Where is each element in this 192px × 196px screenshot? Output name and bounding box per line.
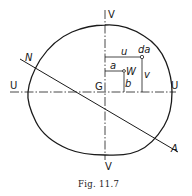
label-v: v <box>144 69 151 80</box>
label-u-right: U <box>171 80 178 91</box>
element-da-point <box>140 55 143 58</box>
label-v-top: V <box>108 9 115 20</box>
label-a-end: A <box>170 143 178 154</box>
neutral-axis-na <box>20 59 178 152</box>
label-n: N <box>25 52 33 63</box>
load-w-point <box>123 70 126 73</box>
label-w: W <box>126 66 137 77</box>
figure-diagram: V V U U G N A u da v a W b Fig. 11.7 <box>0 0 192 196</box>
label-v-bottom: V <box>105 161 112 172</box>
label-da: da <box>138 44 150 55</box>
label-b: b <box>125 78 131 89</box>
figure-caption: Fig. 11.7 <box>78 179 119 189</box>
label-u-left: U <box>10 80 17 91</box>
label-centroid-g: G <box>95 81 103 92</box>
label-a: a <box>110 60 116 71</box>
label-u: u <box>121 46 127 57</box>
